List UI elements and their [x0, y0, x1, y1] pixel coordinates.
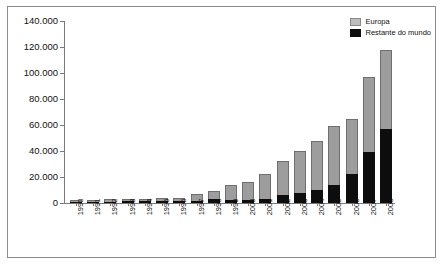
y-axis-tick-label: 120.000	[24, 42, 58, 51]
x-axis-tick-label: 1991	[93, 199, 102, 216]
y-axis-tick	[60, 125, 65, 126]
y-axis-tick	[60, 177, 65, 178]
bar-segment-europa	[259, 174, 271, 199]
x-axis-label-slot: 1998	[208, 205, 220, 251]
bar-column[interactable]	[70, 21, 82, 203]
bar-segment-europa	[380, 50, 392, 129]
x-axis-tick-label: 1997	[197, 199, 206, 216]
bar-column[interactable]	[242, 21, 254, 203]
x-axis-tick-label: 2000	[248, 199, 257, 216]
bar-column[interactable]	[346, 21, 358, 203]
x-axis-label-slot: 1999	[225, 205, 237, 251]
x-axis-label-slot: 2008	[380, 205, 392, 251]
legend-swatch-icon	[350, 18, 361, 26]
x-axis-label-slot: 1996	[173, 205, 185, 251]
legend-label: Europa	[366, 18, 390, 26]
x-axis-label-slot: 1997	[191, 205, 203, 251]
bar-column[interactable]	[191, 21, 203, 203]
x-axis-label-slot: 1993	[122, 205, 134, 251]
bar-column[interactable]	[104, 21, 116, 203]
y-axis-tick	[60, 73, 65, 74]
bar-segment-restante-do-mundo	[363, 152, 375, 203]
x-axis-tick-label: 2005	[334, 199, 343, 216]
bar-column[interactable]	[139, 21, 151, 203]
y-axis-tick-label: 40.000	[29, 146, 58, 155]
bar-segment-europa	[328, 126, 340, 185]
x-axis-tick-label: 2008	[386, 199, 395, 216]
x-axis-label-slot: 2007	[363, 205, 375, 251]
bar-segment-europa	[225, 185, 237, 200]
y-axis-tick-label: 0	[53, 198, 58, 207]
bar-column[interactable]	[294, 21, 306, 203]
x-axis-tick-label: 2002	[283, 199, 292, 216]
x-axis-label-slot: 2005	[328, 205, 340, 251]
y-axis-tick	[60, 47, 65, 48]
legend-item[interactable]: Europa	[350, 18, 431, 26]
bar-column[interactable]	[156, 21, 168, 203]
bar-column[interactable]	[173, 21, 185, 203]
y-axis-tick-label: 140.000	[24, 16, 58, 25]
y-axis-tick-label: 60.000	[29, 120, 58, 129]
x-axis-tick-label: 1998	[214, 199, 223, 216]
x-axis-tick-label: 2007	[369, 199, 378, 216]
y-axis-tick	[60, 21, 65, 22]
y-axis-tick-label: 80.000	[29, 94, 58, 103]
x-axis-labels: 1990199119921993199419951996199719981999…	[64, 205, 395, 251]
bar-column[interactable]	[87, 21, 99, 203]
x-axis-tick-label: 1995	[162, 199, 171, 216]
bar-column[interactable]	[311, 21, 323, 203]
bar-column[interactable]	[363, 21, 375, 203]
x-axis-label-slot: 2003	[294, 205, 306, 251]
bar-segment-europa	[311, 141, 323, 190]
x-axis-label-slot: 2002	[277, 205, 289, 251]
x-axis-tick-label: 1996	[179, 199, 188, 216]
bar-column[interactable]	[328, 21, 340, 203]
y-axis-tick	[60, 203, 65, 204]
x-axis-label-slot: 1991	[87, 205, 99, 251]
bar-series-group	[64, 21, 395, 203]
bar-segment-europa	[346, 119, 358, 175]
bar-segment-europa	[242, 182, 254, 200]
x-axis-label-slot: 2001	[259, 205, 271, 251]
x-axis-label-slot: 2000	[242, 205, 254, 251]
x-axis-label-slot: 1992	[104, 205, 116, 251]
bar-segment-europa	[294, 151, 306, 193]
bar-segment-europa	[363, 77, 375, 152]
x-axis-tick-label: 2001	[265, 199, 274, 216]
x-axis-tick-label: 1994	[145, 199, 154, 216]
bar-column[interactable]	[277, 21, 289, 203]
bar-column[interactable]	[380, 21, 392, 203]
y-axis-tick	[60, 99, 65, 100]
x-axis-tick-label: 2003	[300, 199, 309, 216]
x-axis-label-slot: 2006	[346, 205, 358, 251]
x-axis-label-slot: 1994	[139, 205, 151, 251]
x-axis-tick-label: 1990	[76, 199, 85, 216]
legend-item[interactable]: Restante do mundo	[350, 29, 431, 37]
y-axis-tick	[60, 151, 65, 152]
bar-segment-europa	[277, 161, 289, 195]
bar-column[interactable]	[225, 21, 237, 203]
chart-figure: 140.000120.000100.00080.00060.00040.0002…	[0, 0, 443, 266]
y-axis-tick-label: 100.000	[24, 68, 58, 77]
x-axis-label-slot: 2004	[311, 205, 323, 251]
y-axis-tick-label: 20.000	[29, 172, 58, 181]
bar-column[interactable]	[122, 21, 134, 203]
x-axis-tick-label: 2004	[317, 199, 326, 216]
chart-legend: EuropaRestante do mundo	[350, 18, 431, 37]
legend-swatch-icon	[350, 29, 361, 37]
x-axis-tick-label: 2006	[352, 199, 361, 216]
x-axis-tick-label: 1999	[231, 199, 240, 216]
bar-column[interactable]	[259, 21, 271, 203]
y-axis-labels: 140.000120.000100.00080.00060.00040.0002…	[0, 0, 58, 266]
x-axis-label-slot: 1990	[70, 205, 82, 251]
bar-segment-restante-do-mundo	[380, 129, 392, 203]
x-axis-label-slot: 1995	[156, 205, 168, 251]
x-axis-tick-label: 1992	[110, 199, 119, 216]
legend-label: Restante do mundo	[366, 29, 431, 37]
bar-column[interactable]	[208, 21, 220, 203]
x-axis-tick-label: 1993	[128, 199, 137, 216]
